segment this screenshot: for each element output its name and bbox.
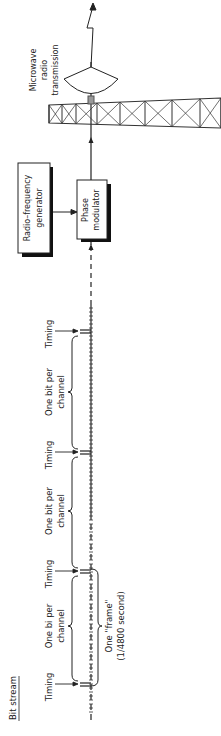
channel-label-line2: channel — [56, 609, 66, 643]
rf-generator-label-line1: Radio–frequency — [23, 174, 32, 241]
rf-to-modulator-arrow — [53, 210, 77, 215]
transmission-signal-icon — [87, 3, 96, 67]
frame-label-line2: (1/4800 second) — [116, 591, 126, 661]
rf-generator-label-line2: generator — [35, 188, 44, 228]
channel-labels: One bit per channel One bit per channel … — [44, 368, 66, 649]
svg-text:transmission: transmission — [51, 44, 60, 95]
frame-label: One "frame" (1/4800 second) — [104, 591, 126, 661]
channel-braces — [68, 336, 78, 681]
frame-label-line1: One "frame" — [104, 599, 114, 652]
timing-label: Timing — [44, 320, 54, 350]
bit-stream-title: Bit stream — [8, 676, 19, 721]
channel-label-line1: One bi per — [44, 603, 54, 648]
phase-modulator-label-line1: Phase — [81, 198, 90, 222]
channel-label-line2: channel — [56, 375, 66, 409]
timing-label: Timing — [44, 441, 54, 471]
channel-label-line1: One bit per — [44, 368, 54, 416]
svg-text:Microwave: Microwave — [29, 49, 38, 92]
bitstream-to-modulator-arrow — [89, 244, 94, 250]
antenna-icon — [64, 67, 118, 104]
frame-brace — [91, 569, 102, 686]
channel-label-line1: One bit per — [44, 487, 54, 535]
tower — [49, 98, 221, 128]
channel-label-line2: channel — [56, 494, 66, 528]
svg-text:radio: radio — [40, 60, 49, 80]
antenna-label: Microwave radio transmission — [29, 44, 60, 95]
svg-text:Bit stream: Bit stream — [8, 676, 18, 720]
rf-generator-block: Radio–frequency generator — [18, 163, 53, 257]
timing-label: Timing — [44, 560, 54, 590]
phase-modulator-block: Phase modulator — [77, 180, 111, 242]
timing-label: Timing — [44, 673, 54, 703]
bit-stream-diagram: Timing Timing Timing Timing One bit per … — [0, 0, 221, 736]
modulator-to-antenna-arrow — [89, 137, 94, 143]
phase-modulator-label-line2: modulator — [92, 189, 101, 231]
